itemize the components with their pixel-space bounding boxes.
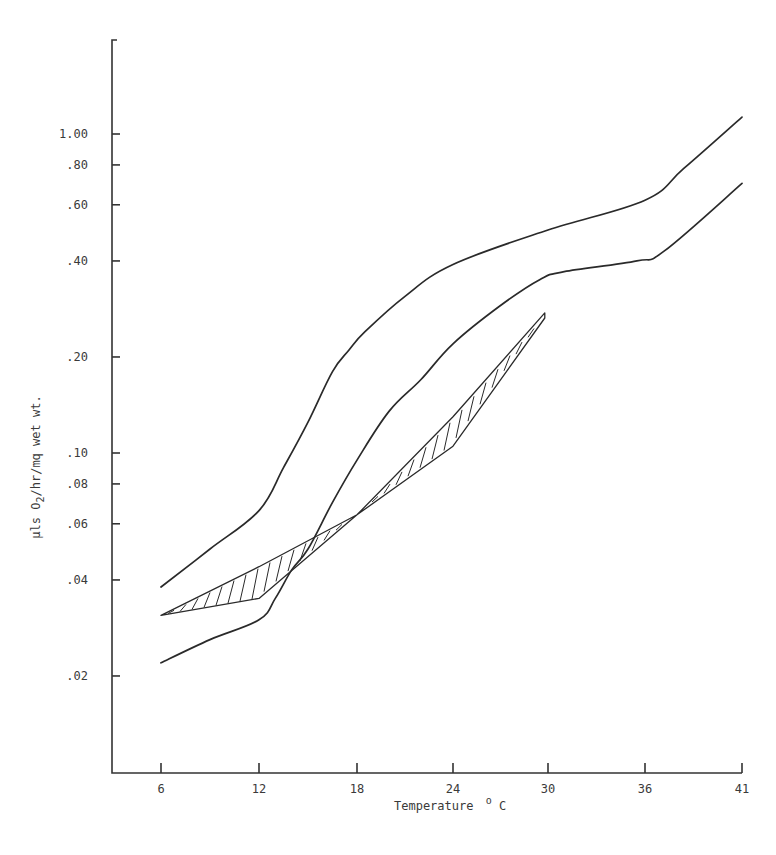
axes — [112, 40, 742, 773]
y-tick-label: .04 — [66, 573, 88, 587]
x-tick-label: 30 — [541, 782, 555, 796]
y-tick-label: .06 — [66, 517, 88, 531]
hatched-band-outline — [161, 313, 545, 615]
upper-curve — [161, 117, 742, 587]
hatch-line — [432, 435, 438, 459]
x-ticks: 6121824303641 — [157, 763, 749, 796]
x-tick-label: 24 — [446, 782, 460, 796]
chart: 1.00.80.60.40.20.10.08.06.04.02 61218243… — [0, 0, 776, 855]
hatch-line — [252, 569, 258, 599]
hatch-line — [228, 581, 234, 604]
y-ticks: 1.00.80.60.40.20.10.08.06.04.02 — [59, 127, 120, 683]
x-axis-title: Temperature o C — [394, 793, 506, 813]
y-axis-title: µls O2/hr/mq wet wt. — [29, 395, 46, 538]
y-tick-label: .02 — [66, 669, 88, 683]
y-tick-label: .80 — [66, 158, 88, 172]
y-tick-label: .40 — [66, 254, 88, 268]
y-tick-label: 1.00 — [59, 127, 88, 141]
y-tick-label: .60 — [66, 198, 88, 212]
hatch-line — [528, 329, 534, 338]
hatch-line — [264, 563, 270, 592]
x-tick-label: 36 — [638, 782, 652, 796]
x-tick-label: 6 — [157, 782, 164, 796]
hatch-line — [276, 556, 282, 581]
hatch-line — [456, 410, 462, 438]
hatched-band — [161, 313, 545, 615]
hatch-line — [216, 587, 222, 606]
x-tick-label: 18 — [350, 782, 364, 796]
y-tick-label: .08 — [66, 477, 88, 491]
lower-curve — [161, 183, 742, 662]
x-tick-label: 12 — [252, 782, 266, 796]
hatch-line — [204, 593, 210, 608]
y-axis — [112, 40, 742, 773]
x-tick-label: 41 — [735, 782, 749, 796]
y-tick-label: .10 — [66, 446, 88, 460]
hatch-line — [240, 575, 246, 602]
hatch-line — [444, 423, 450, 451]
curves — [161, 117, 742, 663]
y-tick-label: .20 — [66, 350, 88, 364]
